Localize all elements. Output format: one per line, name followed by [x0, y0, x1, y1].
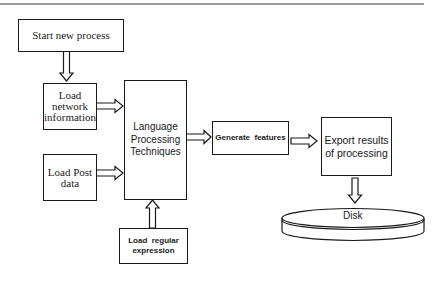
- export-label-line-2: of processing: [325, 147, 387, 160]
- lpt-label-line-2: Processing: [131, 134, 180, 147]
- generate-features-node: Generate features: [212, 121, 289, 155]
- arrow-network-to-lpt: [96, 100, 123, 113]
- arrow-export-to-disk: [349, 178, 362, 203]
- start-node-label: Start new process: [32, 30, 110, 41]
- post-label-line-1: Load Post: [48, 167, 92, 178]
- flowchart-canvas: Start new process Load network informati…: [0, 0, 440, 285]
- arrow-lpt-to-generate: [186, 131, 211, 144]
- arrow-generate-to-export: [291, 135, 317, 148]
- start-new-process-node: Start new process: [18, 19, 124, 52]
- disk-label: Disk: [343, 210, 362, 221]
- lpt-label-line-3: Techniques: [130, 146, 181, 159]
- generate-label: Generate features: [215, 133, 285, 143]
- arrow-post-to-lpt: [96, 167, 123, 180]
- arrow-regex-to-lpt: [146, 200, 159, 228]
- language-processing-techniques-node: Language Processing Techniques: [124, 80, 187, 200]
- load-network-information-node: Load network information: [43, 83, 97, 130]
- regex-label-line-1: Load regular: [128, 236, 179, 246]
- regex-label-line-2: expression: [132, 246, 174, 256]
- post-label-line-2: data: [61, 178, 79, 189]
- load-post-data-node: Load Post data: [43, 154, 97, 201]
- arrow-start-to-network: [60, 51, 73, 81]
- lpt-label-line-1: Language: [133, 121, 178, 134]
- network-label-line-3: information: [44, 112, 96, 123]
- export-label-line-1: Export results: [324, 134, 388, 147]
- export-results-node: Export results of processing: [321, 117, 392, 176]
- load-regular-expression-node: Load regular expression: [119, 228, 188, 264]
